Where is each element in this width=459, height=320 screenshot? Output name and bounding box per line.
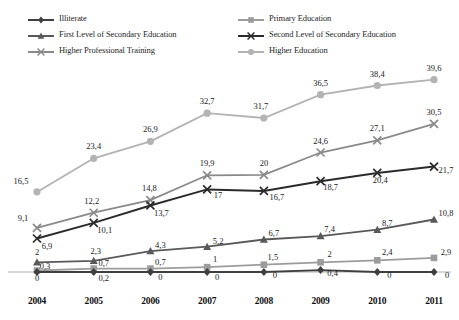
data-point-label: 8,7	[382, 218, 393, 228]
x-axis-tick-2005: 2005	[85, 296, 103, 306]
line-chart: IlliterateFirst Level of Secondary Educa…	[0, 0, 459, 320]
data-point-label: 7,4	[324, 224, 335, 234]
data-point-label: 6,7	[269, 228, 280, 238]
square-marker-icon	[238, 12, 264, 24]
data-point-label: 0	[158, 272, 162, 282]
data-point-label: 1	[213, 254, 217, 264]
legend-item-label: Second Level of Secondary Education	[269, 29, 396, 39]
legend-item-label: Higher Education	[269, 45, 328, 55]
legend-item-label: Primary Education	[269, 13, 331, 23]
data-point-label: 27,1	[370, 123, 385, 133]
data-point-label: 20	[260, 158, 269, 168]
data-point-label: 39,6	[427, 63, 442, 73]
data-point-label: 30,5	[427, 107, 442, 117]
legend-item-primary-education[interactable]: Primary Education	[238, 10, 396, 26]
data-point-label: 0,4	[327, 268, 338, 278]
legend-item-label: First Level of Secondary Education	[59, 29, 176, 39]
data-point	[430, 76, 437, 83]
data-point-label: 26,9	[143, 124, 158, 134]
data-point-label: 0	[215, 272, 219, 282]
diamond-marker-icon	[28, 12, 54, 24]
data-point-label: 10,8	[439, 208, 454, 218]
cross-marker-icon	[238, 28, 264, 40]
data-point-label: 0,7	[98, 258, 109, 268]
x-axis-tick-2011: 2011	[425, 296, 443, 306]
x-axis-tick-2008: 2008	[255, 296, 273, 306]
data-point-label: 0	[387, 270, 391, 280]
data-point	[204, 110, 211, 117]
data-point-label: 18,7	[323, 182, 338, 192]
data-point-label: 24,6	[313, 136, 328, 146]
data-point-label: 2,3	[90, 246, 101, 256]
data-point-label: 0,7	[155, 257, 166, 267]
chart-legend: IlliterateFirst Level of Secondary Educa…	[0, 10, 459, 58]
data-point-label: 0	[445, 270, 449, 280]
data-point-label: 5,2	[213, 236, 224, 246]
legend-item-second-level-of-secondary-education[interactable]: Second Level of Secondary Education	[238, 26, 396, 42]
data-point	[431, 268, 438, 276]
data-point-label: 2,4	[382, 247, 393, 257]
triangle-marker-icon	[28, 28, 54, 40]
legend-item-higher-education[interactable]: Higher Education	[238, 42, 396, 58]
x-axis-tick-2010: 2010	[368, 296, 386, 306]
data-point-label: 16,5	[14, 176, 29, 186]
legend-item-label: Higher Professional Training	[59, 45, 155, 55]
data-point	[261, 261, 268, 268]
x-axis-tick-2009: 2009	[311, 296, 329, 306]
data-point-label: 4,3	[155, 240, 166, 250]
data-point	[90, 155, 97, 162]
legend-item-first-level-of-secondary-education[interactable]: First Level of Secondary Education	[28, 26, 176, 42]
x-axis-tick-2007: 2007	[198, 296, 216, 306]
data-point-label: 2	[35, 247, 39, 257]
cross-marker-icon	[28, 44, 54, 56]
data-point-label: 17	[214, 190, 223, 200]
data-point-label: 38,4	[370, 69, 386, 79]
data-point-label: 12,2	[84, 196, 99, 206]
data-point	[147, 138, 154, 145]
x-axis-tick-2004: 2004	[28, 296, 46, 306]
data-point	[374, 268, 381, 276]
data-point-label: 16,7	[269, 192, 284, 202]
legend-item-label: Illiterate	[59, 13, 87, 23]
data-point-label: 20,4	[373, 175, 389, 185]
plot-area: 00,20000,4000,30,70,711,522,42,922,34,35…	[0, 58, 459, 293]
data-point-label: 0,2	[98, 273, 109, 283]
data-point-label: 23,4	[86, 141, 102, 151]
x-axis-tick-labels: 20042005200620072008200920102011	[0, 296, 459, 314]
data-point	[260, 114, 267, 121]
data-point-label: 0,3	[40, 261, 51, 271]
data-point	[374, 82, 381, 89]
data-point-label: 1,5	[268, 252, 279, 262]
data-point-label: 0	[273, 270, 277, 280]
data-point-label: 21,7	[439, 165, 454, 175]
circle-marker-icon	[238, 44, 264, 56]
data-point-label: 14,8	[142, 183, 157, 193]
data-point	[317, 259, 324, 266]
data-point-label: 31,7	[253, 101, 268, 111]
data-point	[33, 188, 40, 195]
legend-column-right: Primary EducationSecond Level of Seconda…	[238, 10, 396, 58]
legend-item-higher-professional-training[interactable]: Higher Professional Training	[28, 42, 176, 58]
data-point	[374, 257, 381, 264]
chart-svg: 00,20000,4000,30,70,711,522,42,922,34,35…	[0, 58, 459, 293]
data-point-label: 10,1	[97, 225, 112, 235]
data-point-label: 2	[327, 249, 331, 259]
legend-column-left: IlliterateFirst Level of Secondary Educa…	[28, 10, 176, 58]
data-point	[317, 266, 324, 274]
data-point-label: 0	[35, 273, 39, 283]
data-point-label: 32,7	[200, 96, 215, 106]
data-point	[431, 255, 438, 262]
data-point	[317, 91, 324, 98]
data-point-label: 2,9	[441, 247, 452, 257]
data-point-label: 13,7	[154, 208, 169, 218]
data-point-label: 36,5	[313, 78, 328, 88]
data-point-label: 19,9	[200, 158, 215, 168]
data-point-label: 9,1	[18, 213, 29, 223]
data-point	[260, 268, 267, 276]
data-point-label: 6,9	[42, 241, 53, 251]
x-axis-tick-2006: 2006	[141, 296, 159, 306]
legend-item-illiterate[interactable]: Illiterate	[28, 10, 176, 26]
